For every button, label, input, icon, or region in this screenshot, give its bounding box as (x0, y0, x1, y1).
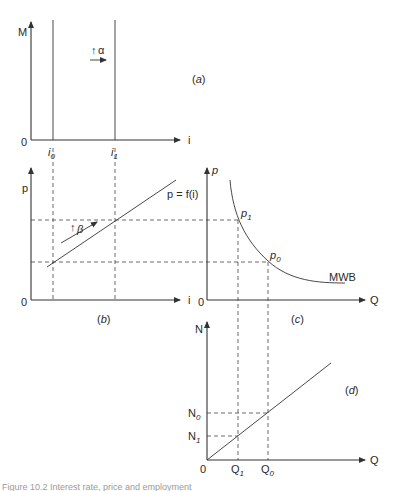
alpha-symbol: α (98, 44, 105, 56)
i-axis-label-b: i (188, 294, 190, 306)
guide-lines (31, 148, 268, 460)
panel-b-tag: (b) (97, 313, 110, 325)
n-axis-label: N (195, 323, 203, 335)
beta-shift-annotation: ↑ β (61, 221, 97, 243)
q-axis-label-c: Q (370, 294, 379, 306)
employment-line (207, 363, 331, 460)
p0-point-label: p0 (269, 249, 281, 264)
p-axis-label-c: p (211, 164, 218, 176)
mwb-label: MWB (329, 271, 356, 283)
panel-d: N Q 0 N0 N1 Q1 Q0 (d) (188, 322, 379, 478)
mwb-curve (230, 180, 345, 283)
origin-d: 0 (200, 463, 206, 475)
four-panel-economics-diagram: M i 0 i0 i1 ↑ α (a) p i 0 p = f(i) ↑ β (0, 0, 394, 491)
price-function-label: p = f(i) (167, 188, 198, 200)
n1-tick-label: N1 (188, 430, 200, 445)
panel-b: p i 0 p = f(i) ↑ β (b) (21, 168, 198, 325)
q0-tick-label: Q0 (261, 463, 275, 478)
figure-caption: Figure 10.2 Interest rate, price and emp… (2, 482, 192, 491)
panel-c: p Q 0 p1 p0 MWB (c) (198, 164, 379, 325)
q-axis-label-d: Q (370, 454, 379, 466)
beta-up-arrow-icon: ↑ (70, 221, 76, 233)
alpha-up-arrow-icon: ↑ (91, 44, 97, 56)
n0-tick-label: N0 (188, 407, 201, 422)
origin-b: 0 (21, 296, 27, 308)
p-axis-label-b: p (22, 182, 28, 194)
i0-tick-label: i0 (48, 146, 55, 161)
panel-a: M i 0 i0 i1 ↑ α (a) (18, 20, 205, 161)
m-axis-label: M (18, 26, 27, 38)
i-axis-label-a: i (188, 134, 190, 146)
origin-a: 0 (21, 136, 27, 148)
origin-c: 0 (198, 296, 204, 308)
panel-c-tag: (c) (291, 313, 304, 325)
alpha-shift-annotation: ↑ α (90, 44, 106, 60)
panel-d-tag: (d) (345, 384, 358, 396)
i1-tick-label: i1 (111, 146, 118, 161)
panel-a-tag: (a) (192, 73, 205, 85)
price-function-line (47, 180, 176, 267)
q1-tick-label: Q1 (231, 463, 244, 478)
p1-point-label: p1 (240, 207, 252, 222)
